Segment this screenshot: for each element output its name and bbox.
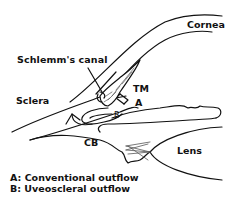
label-cornea: Cornea [187,20,225,30]
schlemm-pointer [88,68,102,92]
label-sclera: Sclera [16,96,49,106]
zonule-fibers [126,142,150,160]
label-ciliary-body: CB [84,138,98,148]
legend-item-uveoscleral: B: Uveoscleral outflow [10,183,139,194]
label-schlemms-canal: Schlemm's canal [17,55,108,65]
legend-item-conventional: A: Conventional outflow [10,172,139,183]
label-b: B [114,112,120,120]
label-a: A [135,98,142,108]
iris-upper-line [112,106,221,118]
label-trabecular-meshwork: TM [133,84,149,94]
label-lens: Lens [177,146,202,156]
legend: A: Conventional outflow B: Uveoscleral o… [10,172,139,194]
eye-angle-diagram: Schlemm's canal Cornea Sclera TM A B CB … [0,0,240,208]
